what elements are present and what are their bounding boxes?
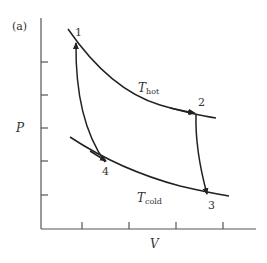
point-2-label: 2	[198, 97, 205, 108]
y-axis-label: P	[16, 122, 24, 134]
t-hot-symbol: T	[138, 81, 146, 95]
cycle-curves	[68, 29, 229, 196]
pv-diagram	[0, 0, 267, 263]
t-hot-label: Thot	[138, 82, 159, 96]
t-cold-subscript: cold	[145, 197, 162, 206]
point-4-label: 4	[102, 166, 109, 177]
t-cold-label: Tcold	[137, 192, 162, 206]
t-cold-symbol: T	[137, 191, 145, 205]
panel-label: (a)	[12, 21, 27, 32]
point-3-label: 3	[208, 200, 215, 211]
x-axis-label: V	[150, 238, 159, 250]
t-hot-subscript: hot	[146, 87, 159, 96]
point-1-label: 1	[75, 27, 82, 38]
